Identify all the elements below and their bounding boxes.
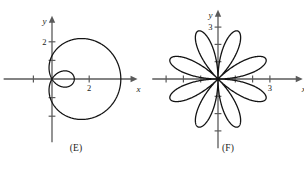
- x-tick-label: 2: [87, 83, 91, 93]
- panel-e: 22xy (E): [0, 0, 152, 175]
- y-axis-label: y: [42, 16, 47, 26]
- y-axis-arrow-icon: [215, 10, 221, 17]
- panel-f: 33xy (F): [152, 0, 304, 175]
- x-tick-label: 3: [268, 83, 272, 93]
- y-tick-label: 3: [208, 22, 212, 32]
- polar-graph-figure: 22xy (E) 33xy (F): [0, 0, 304, 175]
- y-axis-arrow-icon: [49, 16, 55, 23]
- x-axis-arrow-icon: [296, 76, 303, 82]
- x-axis-arrow-icon: [131, 76, 138, 82]
- y-tick-label: 2: [42, 37, 46, 47]
- x-axis-label: x: [136, 84, 141, 94]
- x-axis-label: x: [301, 84, 304, 94]
- y-axis-label: y: [208, 10, 213, 20]
- panel-e-caption: (E): [0, 143, 152, 153]
- panel-f-caption: (F): [152, 143, 304, 153]
